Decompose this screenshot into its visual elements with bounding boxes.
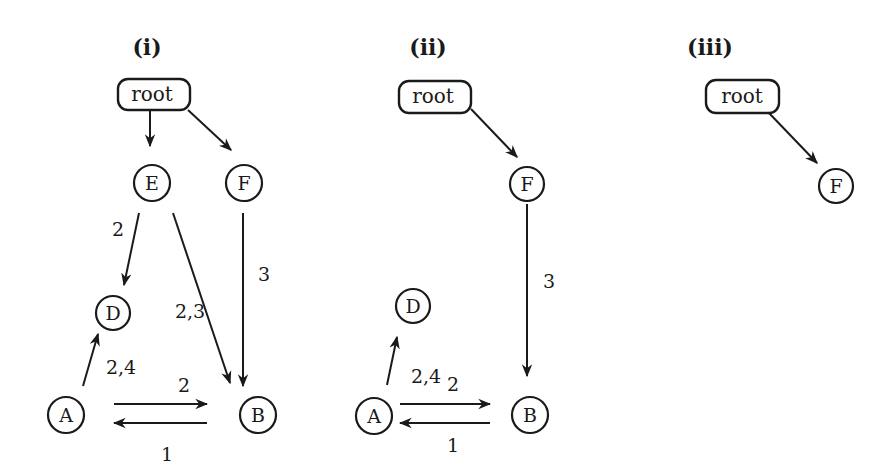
- edge-a-d: [387, 337, 397, 385]
- node-label: B: [523, 404, 537, 426]
- node-label: D: [105, 302, 120, 324]
- root-node: root: [706, 80, 779, 113]
- edge-label-e-d: 2: [112, 218, 124, 240]
- node-d: D: [396, 289, 430, 323]
- node-f: F: [819, 169, 853, 203]
- panel-label: (iii): [687, 34, 733, 60]
- root-node: root: [399, 81, 471, 113]
- edge-label-a-b: 2: [447, 373, 459, 395]
- node-label: B: [251, 404, 265, 426]
- edge-label-b-a: 1: [161, 443, 173, 465]
- node-d: D: [96, 296, 130, 330]
- edge-root-f: [471, 109, 517, 157]
- node-label: F: [237, 172, 250, 194]
- node-label: A: [58, 404, 73, 426]
- node-label: F: [520, 173, 533, 195]
- node-a: A: [48, 397, 84, 433]
- node-f: F: [226, 165, 262, 201]
- node-label: E: [145, 172, 159, 194]
- panel-iii: (iii) root F: [687, 34, 853, 203]
- figure-canvas: (i) root 2 2,3 3 2,4 2 1 E F D: [0, 0, 891, 474]
- edge-label-e-b: 2,3: [175, 300, 205, 322]
- panel-label: (ii): [409, 34, 447, 60]
- node-label: D: [405, 295, 420, 317]
- node-b: B: [512, 397, 548, 433]
- panel-i: (i) root 2 2,3 3 2,4 2 1 E F D: [48, 34, 276, 465]
- edge-label-b-a: 1: [447, 434, 459, 456]
- edge-e-b: [173, 213, 230, 383]
- node-label: A: [366, 405, 381, 427]
- edge-label-a-b: 2: [178, 374, 190, 396]
- root-label: root: [721, 84, 763, 108]
- edge-root-f: [769, 113, 817, 163]
- root-node: root: [118, 79, 190, 110]
- graph-figure: (i) root 2 2,3 3 2,4 2 1 E F D: [0, 0, 891, 474]
- edge-label-a-d: 2,4: [411, 365, 441, 387]
- edge-label-f-b: 3: [258, 263, 270, 285]
- edge-label-a-d: 2,4: [106, 356, 136, 378]
- root-label: root: [412, 84, 454, 108]
- edge-e-d: [124, 213, 139, 285]
- node-f: F: [510, 167, 544, 201]
- node-label: F: [829, 175, 842, 197]
- node-b: B: [240, 397, 276, 433]
- edge-a-d: [83, 334, 98, 386]
- node-a: A: [356, 398, 392, 434]
- panel-label: (i): [132, 34, 161, 60]
- edge-label-f-b: 3: [543, 270, 555, 292]
- root-label: root: [131, 82, 173, 106]
- edge-root-f: [188, 110, 231, 150]
- node-e: E: [134, 165, 170, 201]
- panel-ii: (ii) root 3 2,4 2 1 F D A B: [356, 34, 555, 456]
